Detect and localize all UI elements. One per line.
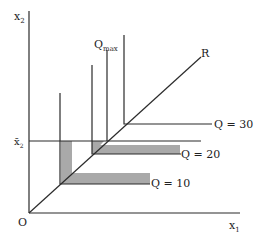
isoquant-q20-label: Q = 20 bbox=[181, 148, 220, 161]
isoquant-diagram: x2 x1 O x̄2 R Qmax Q = 10 Q = 20 Q = 30 bbox=[0, 0, 263, 232]
ray-label: R bbox=[201, 47, 210, 60]
q20-horizontal-shade bbox=[93, 145, 180, 154]
y-axis-label: x2 bbox=[14, 10, 25, 25]
isoquant-q10 bbox=[60, 93, 150, 184]
x-axis-label: x1 bbox=[229, 219, 240, 232]
isoquant-q10-label: Q = 10 bbox=[151, 177, 190, 190]
isoquant-q30 bbox=[124, 35, 212, 124]
origin-label: O bbox=[18, 216, 27, 229]
isoquant-q30-label: Q = 30 bbox=[214, 118, 253, 131]
fixed-input-label: x̄2 bbox=[14, 136, 24, 149]
qmax-label: Qmax bbox=[94, 38, 118, 53]
q10-horizontal-shade bbox=[61, 173, 150, 184]
